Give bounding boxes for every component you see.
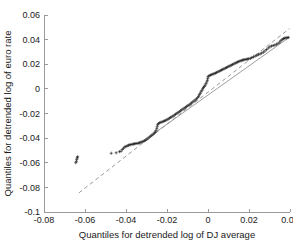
data-point-marker	[206, 79, 209, 82]
y-tick-label: 0.06	[22, 10, 40, 20]
data-point-marker	[272, 44, 275, 47]
reference-line-dashed	[79, 29, 290, 193]
x-tick-label: 0	[205, 215, 210, 225]
data-point-marker	[118, 150, 121, 153]
data-point-marker	[265, 48, 268, 51]
y-tick-label: -0.06	[19, 158, 40, 168]
data-point-marker	[273, 43, 276, 46]
y-tick-label: -0.1	[24, 207, 40, 217]
y-tick-label: -0.08	[19, 183, 40, 193]
data-point-marker	[255, 54, 258, 57]
x-tick-label: 0.02	[240, 215, 258, 225]
x-tick-label: 0.04	[281, 215, 293, 225]
data-point-marker	[110, 152, 113, 155]
qq-plot-canvas: -0.08-0.06-0.04-0.0200.020.04 -0.1-0.08-…	[0, 0, 293, 246]
y-tick-label: 0	[35, 84, 40, 94]
x-axis-ticks: -0.08-0.06-0.04-0.0200.020.04	[34, 209, 293, 226]
data-point-marker	[270, 44, 273, 47]
data-point-marker	[258, 52, 261, 55]
x-tick-label: -0.02	[157, 215, 178, 225]
data-point-marker	[249, 57, 252, 60]
x-tick-label: -0.06	[75, 215, 96, 225]
data-point-marker	[74, 161, 77, 164]
y-axis-title: Quantiles for detrended log of euro rate	[2, 31, 13, 197]
plot-reference-lines	[79, 29, 290, 193]
data-point-marker	[156, 125, 159, 128]
y-tick-label: 0.02	[22, 59, 40, 69]
reference-line-solid	[154, 37, 289, 133]
data-point-group	[74, 36, 290, 165]
y-tick-label: -0.02	[19, 109, 40, 119]
qq-plot-figure: -0.08-0.06-0.04-0.0200.020.04 -0.1-0.08-…	[0, 0, 293, 246]
x-axis-title: Quantiles for detrended log of DJ averag…	[79, 229, 255, 240]
y-tick-label: -0.04	[19, 133, 40, 143]
data-point-marker	[75, 160, 78, 163]
plot-axes: -0.08-0.06-0.04-0.0200.020.04 -0.1-0.08-…	[19, 10, 293, 225]
data-point-marker	[115, 151, 118, 154]
y-tick-label: 0.04	[22, 35, 40, 45]
y-axis-ticks: -0.1-0.08-0.06-0.04-0.0200.020.040.06	[19, 10, 47, 217]
data-point-marker	[206, 77, 209, 80]
x-tick-label: -0.04	[116, 215, 137, 225]
